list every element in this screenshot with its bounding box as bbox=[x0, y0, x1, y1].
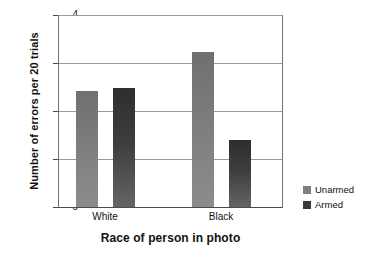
legend-item-unarmed: Unarmed bbox=[303, 183, 367, 196]
x-axis-title: Race of person in photo bbox=[58, 231, 283, 245]
legend-swatch-armed-icon bbox=[303, 201, 311, 209]
x-tick-label-white: White bbox=[65, 211, 145, 222]
plot-area bbox=[58, 15, 283, 208]
bar-black-armed bbox=[229, 140, 251, 207]
bar-chart: Number of errors per 20 trials 4 3 2 1 0… bbox=[0, 0, 369, 257]
legend: Unarmed Armed bbox=[303, 183, 367, 213]
bar-white-armed bbox=[113, 88, 135, 207]
gridline-3 bbox=[59, 63, 282, 64]
x-tick-label-black: Black bbox=[181, 211, 261, 222]
bar-black-unarmed bbox=[192, 52, 214, 207]
bar-white-unarmed bbox=[76, 91, 98, 207]
legend-swatch-unarmed-icon bbox=[303, 186, 311, 194]
legend-label-armed: Armed bbox=[315, 199, 343, 210]
legend-label-unarmed: Unarmed bbox=[315, 184, 354, 195]
legend-item-armed: Armed bbox=[303, 198, 367, 211]
